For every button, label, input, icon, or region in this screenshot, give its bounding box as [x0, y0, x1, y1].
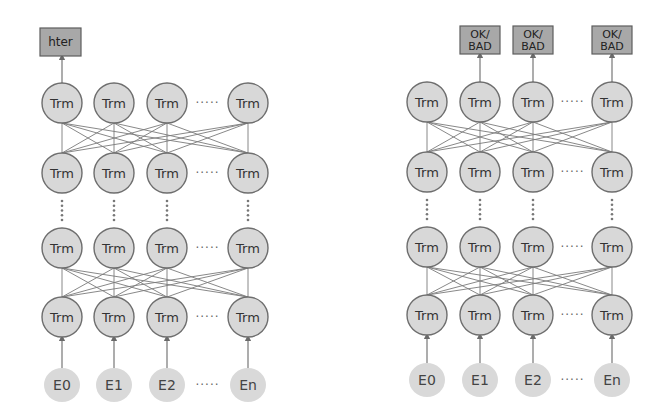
- right-transformer-diagram: TrmTrmTrmTrm·····TrmTrmTrmTrm·····TrmTrm…: [407, 26, 632, 397]
- trm-node: Trm: [42, 83, 82, 123]
- trm-label: Trm: [467, 95, 492, 110]
- embedding-label: En: [603, 372, 621, 388]
- horizontal-ellipsis: ·····: [560, 373, 584, 387]
- horizontal-ellipsis: ·····: [195, 310, 219, 324]
- trm-node: Trm: [228, 228, 268, 268]
- trm-node: Trm: [460, 295, 500, 335]
- embedding-label: E2: [158, 377, 176, 393]
- trm-label: Trm: [49, 166, 74, 181]
- trm-label: Trm: [599, 240, 624, 255]
- vertical-ellipsis-dot: [532, 199, 535, 202]
- vertical-ellipsis-dot: [532, 203, 535, 206]
- horizontal-ellipsis: ·····: [560, 240, 584, 254]
- trm-node: Trm: [592, 82, 632, 122]
- vertical-ellipsis-dot: [247, 219, 250, 222]
- horizontal-ellipsis: ·····: [560, 165, 584, 179]
- horizontal-ellipsis: ·····: [560, 95, 584, 109]
- trm-label: Trm: [101, 96, 126, 111]
- trm-label: Trm: [414, 95, 439, 110]
- trm-label: Trm: [599, 308, 624, 323]
- ok-bad-output-box: OK/BAD: [460, 26, 500, 54]
- trm-node: Trm: [592, 152, 632, 192]
- vertical-ellipsis-dot: [166, 204, 169, 207]
- trm-label: Trm: [235, 166, 260, 181]
- vertical-ellipsis-dot: [426, 208, 429, 211]
- trm-node: Trm: [513, 295, 553, 335]
- vertical-ellipsis-dot: [166, 200, 169, 203]
- trm-label: Trm: [414, 165, 439, 180]
- ok-bad-output-box: OK/BAD: [513, 26, 553, 54]
- trm-node: Trm: [147, 83, 187, 123]
- vertical-ellipsis-dot: [61, 204, 64, 207]
- trm-node: Trm: [460, 82, 500, 122]
- embedding-node: E1: [96, 368, 132, 402]
- trm-node: Trm: [407, 82, 447, 122]
- output-label: BAD: [600, 40, 624, 53]
- trm-node: Trm: [94, 297, 134, 337]
- vertical-ellipsis-dot: [532, 218, 535, 221]
- vertical-ellipsis-dot: [611, 213, 614, 216]
- ok-bad-output-box: OK/BAD: [592, 26, 632, 54]
- vertical-ellipsis-dot: [113, 204, 116, 207]
- trm-node: Trm: [94, 228, 134, 268]
- trm-node: Trm: [228, 297, 268, 337]
- trm-label: Trm: [101, 310, 126, 325]
- trm-label: Trm: [467, 240, 492, 255]
- embedding-node: E0: [409, 363, 445, 397]
- trm-node: Trm: [513, 227, 553, 267]
- vertical-ellipsis-dot: [166, 209, 169, 212]
- trm-label: Trm: [520, 308, 545, 323]
- trm-node: Trm: [228, 83, 268, 123]
- trm-label: Trm: [101, 166, 126, 181]
- vertical-ellipsis-dot: [611, 208, 614, 211]
- vertical-ellipsis-dot: [532, 213, 535, 216]
- vertical-ellipsis-dot: [61, 200, 64, 203]
- trm-label: Trm: [520, 95, 545, 110]
- trm-label: Trm: [154, 241, 179, 256]
- vertical-ellipsis-dot: [479, 213, 482, 216]
- horizontal-ellipsis: ·····: [195, 241, 219, 255]
- trm-node: Trm: [94, 83, 134, 123]
- embedding-node: E2: [515, 363, 551, 397]
- trm-node: Trm: [592, 295, 632, 335]
- trm-node: Trm: [513, 82, 553, 122]
- trm-node: Trm: [513, 152, 553, 192]
- output-label: BAD: [521, 40, 545, 53]
- embedding-label: E0: [53, 377, 71, 393]
- hter-output-box: hter: [40, 28, 81, 56]
- vertical-ellipsis-dot: [247, 214, 250, 217]
- diagram-canvas: TrmTrmTrmTrm·····TrmTrmTrmTrm·····TrmTrm…: [0, 0, 671, 411]
- vertical-ellipsis-dot: [113, 214, 116, 217]
- trm-label: Trm: [414, 308, 439, 323]
- trm-label: Trm: [235, 241, 260, 256]
- output-label: hter: [48, 35, 73, 49]
- trm-node: Trm: [407, 152, 447, 192]
- embedding-label: E0: [418, 372, 436, 388]
- trm-label: Trm: [599, 95, 624, 110]
- vertical-ellipsis-dot: [426, 199, 429, 202]
- trm-label: Trm: [49, 241, 74, 256]
- embedding-label: En: [239, 377, 257, 393]
- trm-node: Trm: [147, 228, 187, 268]
- vertical-ellipsis-dot: [611, 218, 614, 221]
- embedding-node: E0: [44, 368, 80, 402]
- trm-node: Trm: [42, 153, 82, 193]
- vertical-ellipsis-dot: [166, 219, 169, 222]
- trm-label: Trm: [49, 96, 74, 111]
- trm-node: Trm: [147, 297, 187, 337]
- trm-label: Trm: [235, 310, 260, 325]
- horizontal-ellipsis: ·····: [195, 96, 219, 110]
- embedding-label: E1: [471, 372, 489, 388]
- trm-label: Trm: [520, 240, 545, 255]
- vertical-ellipsis-dot: [479, 218, 482, 221]
- horizontal-ellipsis: ·····: [195, 378, 219, 392]
- trm-label: Trm: [520, 165, 545, 180]
- vertical-ellipsis-dot: [479, 199, 482, 202]
- trm-node: Trm: [228, 153, 268, 193]
- vertical-ellipsis-dot: [611, 199, 614, 202]
- vertical-ellipsis-dot: [426, 213, 429, 216]
- vertical-ellipsis-dot: [113, 200, 116, 203]
- trm-label: Trm: [467, 165, 492, 180]
- embedding-node: En: [230, 368, 266, 402]
- vertical-ellipsis-dot: [61, 209, 64, 212]
